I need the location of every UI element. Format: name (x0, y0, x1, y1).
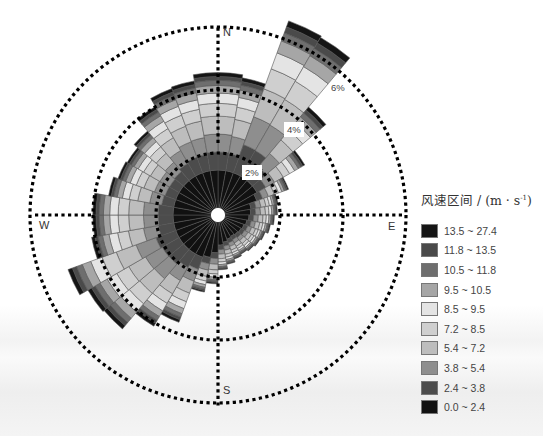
legend-item: 8.5 ~ 9.5 (421, 299, 543, 319)
legend-label: 9.5 ~ 10.5 (444, 284, 491, 296)
sector-band (260, 207, 266, 215)
legend-label: 10.5 ~ 11.8 (444, 264, 496, 276)
legend-label: 13.5 ~ 27.4 (444, 225, 497, 237)
ring-label-6pct: 6% (328, 80, 348, 95)
sector-band (209, 258, 218, 264)
sector-band (118, 198, 130, 215)
legend: 风速区间 / (m · s-1) 13.5 ~ 27.411.8 ~ 13.51… (421, 190, 543, 417)
sector-band (199, 103, 218, 117)
legend-item: 3.8 ~ 5.4 (421, 358, 543, 378)
sector-band (118, 215, 130, 232)
sector-band (253, 215, 258, 222)
legend-swatch (421, 243, 438, 257)
legend-label: 3.8 ~ 5.4 (444, 362, 485, 374)
legend-label: 11.8 ~ 13.5 (444, 244, 496, 256)
legend-label: 7.2 ~ 8.5 (444, 323, 485, 335)
legend-swatch (421, 283, 438, 297)
center-hole (211, 208, 225, 222)
legend-swatch (421, 322, 438, 336)
west-label: W (39, 219, 49, 231)
sector-band (201, 116, 218, 135)
east-label: E (388, 220, 395, 232)
sector-band (129, 215, 145, 231)
wind-rose-sectors (68, 21, 350, 329)
sector-band (218, 245, 224, 250)
sector-band (255, 208, 261, 215)
legend-item: 9.5 ~ 10.5 (421, 280, 543, 300)
legend-item: 7.2 ~ 8.5 (421, 319, 543, 339)
legend-item: 10.5 ~ 11.8 (421, 260, 543, 280)
legend-item: 13.5 ~ 27.4 (421, 221, 543, 241)
legend-item: 11.8 ~ 13.5 (421, 241, 543, 261)
south-label: S (223, 384, 230, 396)
legend-swatch (421, 400, 438, 414)
legend-swatch (421, 224, 438, 238)
legend-label: 8.5 ~ 9.5 (444, 303, 485, 315)
sector-band (110, 196, 120, 215)
sector-band (197, 93, 218, 105)
legend-item: 5.4 ~ 7.2 (421, 339, 543, 359)
legend-label: 0.0 ~ 2.4 (444, 401, 485, 413)
legend-item: 0.0 ~ 2.4 (421, 397, 543, 417)
sector-band (218, 103, 237, 117)
legend-swatch (421, 361, 438, 375)
ring-label-2pct: 2% (242, 165, 262, 180)
legend-label: 2.4 ~ 3.8 (444, 382, 485, 394)
sector-band (110, 215, 120, 234)
legend-swatch (421, 381, 438, 395)
sector-band (250, 208, 255, 215)
legend-item: 2.4 ~ 3.8 (421, 378, 543, 398)
legend-swatch (421, 263, 438, 277)
north-label: N (223, 26, 231, 38)
legend-swatch (421, 302, 438, 316)
sector-band (210, 252, 218, 258)
legend-title: 风速区间 / (m · s-1) (421, 190, 543, 209)
sector-band (218, 249, 225, 254)
legend-list: 13.5 ~ 27.411.8 ~ 13.510.5 ~ 11.89.5 ~ 1… (421, 221, 543, 417)
sector-band (208, 264, 218, 270)
sector-band (218, 93, 239, 105)
legend-swatch (421, 341, 438, 355)
ring-label-4pct: 4% (284, 122, 304, 137)
legend-label: 5.4 ~ 7.2 (444, 342, 485, 354)
